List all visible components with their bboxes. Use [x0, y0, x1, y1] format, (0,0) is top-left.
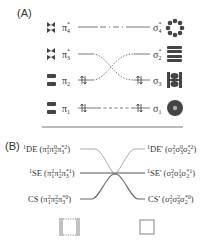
state-label-1de: 1DE (π12π20π3*2) — [23, 144, 70, 155]
svg-text:π4*: π4* — [62, 21, 70, 34]
sigma3-label: σ3 — [153, 75, 161, 87]
svg-text:1DE' (σ12σ30σ2*2): 1DE' (σ12σ30σ2*2) — [147, 144, 197, 155]
cs-state-curve — [80, 174, 145, 199]
sigma1-orbital-icon — [167, 100, 183, 116]
cyclobutane-square-icon — [140, 220, 154, 234]
panel-b-label: (B) — [5, 140, 20, 152]
svg-text:CS (π12π22π3*0): CS (π12π22π3*0) — [28, 194, 71, 205]
svg-text:σ1: σ1 — [153, 103, 161, 115]
pi4-label: π4* — [62, 21, 70, 34]
svg-text:1DE (π12π20π3*2): 1DE (π12π20π3*2) — [23, 144, 70, 155]
svg-text:CS' (σ12σ32σ2*0): CS' (σ12σ32σ2*0) — [148, 194, 194, 205]
svg-text:σ3: σ3 — [153, 75, 161, 87]
svg-text:π1: π1 — [62, 103, 70, 115]
two-ethylene-molecules-icon — [60, 218, 79, 236]
state-label-cs-prime: CS' (σ12σ32σ2*0) — [148, 194, 194, 205]
svg-text:π3*: π3* — [62, 48, 70, 61]
sigma2-orbital-icon — [167, 46, 182, 62]
pi2-label: π2 — [62, 75, 70, 87]
sigma2-label: σ2* — [153, 48, 161, 61]
pi1-orbital-icon — [47, 102, 56, 114]
svg-text:1SE' (σ12σ31σ2*1): 1SE' (σ12σ31σ2*1) — [147, 168, 195, 179]
svg-text:σ2*: σ2* — [153, 48, 161, 61]
state-label-1se-prime: 1SE' (σ12σ31σ2*1) — [147, 168, 195, 179]
de-state-curve — [80, 149, 145, 175]
state-label-1de-prime: 1DE' (σ12σ30σ2*2) — [147, 144, 197, 155]
state-label-1se: 1SE (π12π21π3*1) — [29, 168, 75, 179]
sigma4-label: σ4* — [153, 21, 161, 34]
svg-text:1SE (π12π21π3*1): 1SE (π12π21π3*1) — [29, 168, 75, 179]
pi3-sigma3-correlation — [78, 54, 134, 80]
panel-a-label: (A) — [17, 7, 32, 19]
sigma3-orbital-icon — [167, 72, 182, 88]
svg-text:π2: π2 — [62, 75, 70, 87]
sigma4-orbital-icon — [166, 19, 185, 38]
pi3-label: π3* — [62, 48, 70, 61]
sigma1-label: σ1 — [153, 103, 161, 115]
pi3-orbital-icon — [47, 48, 55, 60]
svg-text:σ4*: σ4* — [153, 21, 161, 34]
pi2-sigma2-correlation — [78, 54, 150, 80]
orbital-correlation-diagram: (A) π4* π3* π2 π1 — [0, 0, 219, 242]
pi2-orbital-icon — [47, 74, 56, 86]
pi4-orbital-icon — [47, 22, 55, 33]
state-label-cs: CS (π12π22π3*0) — [28, 194, 71, 205]
pi1-label: π1 — [62, 103, 70, 115]
